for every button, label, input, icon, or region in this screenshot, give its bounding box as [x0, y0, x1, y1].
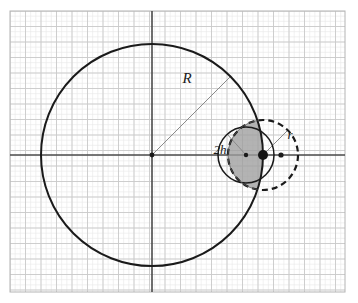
label-2h: 2h — [214, 142, 227, 157]
geometry-diagram-svg: R 2h r — [0, 0, 358, 303]
small-circle-center-dot — [244, 153, 248, 157]
big-circle-center-dot — [150, 153, 155, 158]
right-point-dot — [278, 152, 283, 157]
tangency-point-dot — [258, 150, 268, 160]
figure-root: R 2h r — [0, 0, 358, 303]
label-R: R — [181, 70, 191, 86]
